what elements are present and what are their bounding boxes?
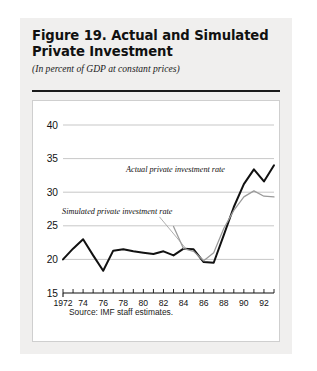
x-axis-group — [63, 289, 274, 297]
figure-subtitle: (In percent of GDP at constant prices) — [32, 63, 282, 74]
annotations-group: Actual private investment rateSimulated … — [62, 165, 225, 250]
x-axis-tick-label: 88 — [219, 298, 229, 308]
series-line — [63, 165, 274, 271]
y-axis-tick-label: 30 — [47, 187, 59, 198]
annotation-simulated-label: Simulated private investment rate — [62, 207, 173, 216]
figure-title-line2: Private Investment — [32, 44, 282, 60]
y-axis-tick-label: 40 — [47, 120, 59, 131]
source-note: Source: IMF staff estimates. — [69, 307, 173, 317]
annotation-leader-line — [160, 217, 188, 250]
title-divider — [32, 90, 280, 92]
x-axis-tick-label: 92 — [259, 298, 269, 308]
y-axis-tick-label: 35 — [47, 153, 59, 164]
plot-panel: 152025303540 197274767880828486889092 Ac… — [32, 100, 280, 342]
y-axis-tick-label: 20 — [47, 254, 59, 265]
data-series-group — [63, 165, 274, 271]
y-axis-labels-group: 152025303540 — [47, 120, 59, 299]
figure-header: Figure 19. Actual and Simulated Private … — [32, 28, 282, 74]
y-axis-tick-label: 25 — [47, 220, 59, 231]
x-axis-tick-label: 86 — [199, 298, 209, 308]
figure-block: Figure 19. Actual and Simulated Private … — [20, 18, 292, 354]
page-canvas: Figure 19. Actual and Simulated Private … — [0, 0, 317, 371]
line-chart: 152025303540 197274767880828486889092 Ac… — [33, 101, 279, 341]
x-axis-tick-label: 84 — [179, 298, 189, 308]
figure-title-line1: Figure 19. Actual and Simulated — [32, 28, 282, 44]
annotation-actual-label: Actual private investment rate — [125, 165, 225, 174]
gridlines-group — [63, 125, 274, 259]
y-axis-tick-label: 15 — [47, 288, 59, 299]
x-axis-tick-label: 90 — [239, 298, 249, 308]
